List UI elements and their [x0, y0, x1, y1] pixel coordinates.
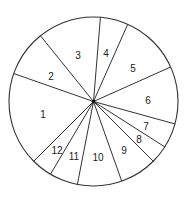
slice-label: 1 [40, 109, 46, 120]
pie-chart: 123456789101112 [0, 0, 184, 197]
slice-label: 11 [69, 151, 80, 162]
slice-label: 5 [130, 63, 136, 74]
slice-label: 8 [136, 134, 142, 145]
slice-label: 4 [103, 48, 109, 59]
slice-label: 6 [145, 95, 151, 106]
slice-label: 9 [121, 145, 127, 156]
slice-label: 12 [51, 145, 63, 156]
slice-label: 10 [92, 152, 104, 163]
slice-label: 2 [48, 71, 54, 82]
center-hub [92, 100, 96, 104]
slice-label: 3 [75, 50, 81, 61]
slice-label: 7 [143, 121, 149, 132]
